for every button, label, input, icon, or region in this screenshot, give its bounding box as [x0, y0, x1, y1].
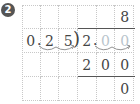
product-digit: 0: [115, 53, 134, 77]
quotient-digit: 8: [115, 5, 134, 29]
product-digit: 2: [78, 53, 97, 77]
grid-cell: [59, 77, 78, 101]
subtraction-line: [78, 76, 135, 77]
division-bar: [78, 28, 135, 29]
problem-number-badge: 2: [1, 3, 15, 17]
grid-cell: [78, 77, 97, 101]
grid-cell: [22, 77, 41, 101]
decimal-shift-arrow-icon: [38, 44, 78, 54]
grid-cell: [22, 5, 41, 29]
grid-cell: [41, 77, 60, 101]
product-digit: 0: [97, 53, 116, 77]
grid-cell: [22, 53, 41, 77]
grid-cell: [41, 53, 60, 77]
grid-cell: [97, 5, 116, 29]
grid-cell: [41, 5, 60, 29]
grid-cell: [97, 77, 116, 101]
decimal-shift-arrow-icon: [94, 44, 136, 54]
grid-cell: [78, 5, 97, 29]
grid-cell: [59, 5, 78, 29]
remainder-digit: 0: [115, 77, 134, 101]
grid-cell: [59, 53, 78, 77]
